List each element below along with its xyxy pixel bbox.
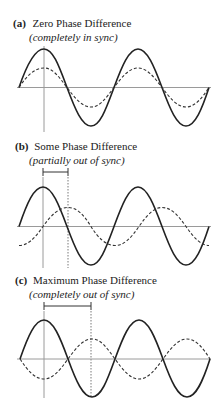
- panel-c-title-text: Maximum Phase Difference: [33, 274, 157, 286]
- panel-a: (a) Zero Phase Difference (completely in…: [13, 17, 211, 132]
- panel-a-subtitle: (completely in sync): [29, 31, 118, 44]
- panel-a-tag: (a): [13, 17, 26, 30]
- panel-b: (b) Some Phase Difference (partially out…: [15, 140, 211, 268]
- panel-c-phase-bracket: [44, 302, 91, 310]
- panel-b-subtitle: (partially out of sync): [29, 154, 125, 167]
- panel-b-title-text: Some Phase Difference: [34, 140, 137, 152]
- panel-b-tag: (b): [15, 140, 29, 153]
- panel-c-subtitle: (completely out of sync): [29, 288, 135, 301]
- panel-b-phase-bracket: [43, 168, 68, 176]
- panel-c: (c) Maximum Phase Difference (completely…: [15, 274, 211, 398]
- panel-a-title: (a) Zero Phase Difference: [13, 17, 131, 30]
- panel-a-title-text: Zero Phase Difference: [33, 17, 132, 29]
- panel-b-title: (b) Some Phase Difference: [15, 140, 137, 153]
- panel-c-title: (c) Maximum Phase Difference: [15, 274, 157, 287]
- panel-c-tag: (c): [15, 274, 28, 287]
- phase-difference-diagram: (a) Zero Phase Difference (completely in…: [0, 0, 221, 398]
